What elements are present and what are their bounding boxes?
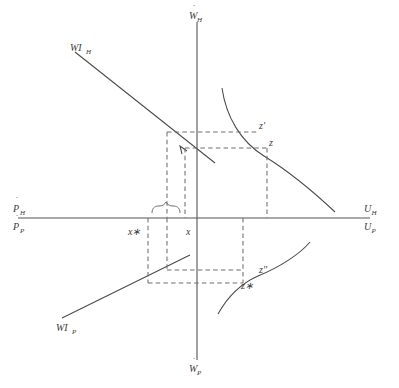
label-wi-upper-base: WI bbox=[70, 42, 82, 53]
label-right-lower: U P bbox=[364, 221, 377, 235]
label-u-lower-sub: P bbox=[371, 227, 377, 235]
label-wi-lower-sub: P bbox=[71, 328, 77, 336]
label-p-lower: P bbox=[12, 221, 19, 232]
label-p-lower-sub: P bbox=[19, 227, 25, 235]
label-wi-lower: WI P bbox=[56, 322, 77, 336]
label-left-upper: ˙ P H bbox=[12, 195, 26, 217]
diagram-canvas: ˙ W H ˙ W P ˙ P H ˙ P P U H U bbox=[0, 0, 399, 388]
label-vertical-top: ˙ W H bbox=[189, 3, 203, 24]
point-label-z-prime: z′ bbox=[258, 120, 266, 131]
axis-group bbox=[18, 22, 370, 360]
wi-arrow-marker bbox=[180, 146, 187, 154]
wi-lines-group bbox=[62, 52, 215, 318]
wi-upper-line bbox=[75, 52, 215, 163]
tick-label-x: x bbox=[185, 226, 191, 237]
label-wi-upper: WI H bbox=[70, 42, 92, 56]
dashed-projections-lower bbox=[148, 218, 243, 283]
label-wi-upper-sub: H bbox=[85, 48, 92, 56]
gap-brace bbox=[152, 202, 180, 213]
label-p-upper-sub: H bbox=[19, 209, 26, 217]
label-u-upper-sub: H bbox=[371, 209, 378, 217]
phillips-curve-lower bbox=[218, 242, 310, 314]
point-label-z: z bbox=[268, 137, 273, 148]
point-label-z-double-prime: z′′ bbox=[258, 264, 268, 275]
label-vertical-bottom: ˙ W P bbox=[189, 356, 202, 377]
phillips-curve-upper bbox=[222, 88, 335, 212]
label-w-lower-sub: P bbox=[196, 369, 202, 377]
wi-lower-line bbox=[62, 255, 190, 318]
label-right-upper: U H bbox=[364, 203, 378, 217]
point-label-z-star: z∗ bbox=[240, 280, 254, 291]
dashed-projections-upper bbox=[167, 132, 267, 218]
four-quadrant-diagram: ˙ W H ˙ W P ˙ P H ˙ P P U H U bbox=[0, 0, 399, 388]
label-w-upper-sub: H bbox=[196, 16, 203, 24]
phillips-curves-group bbox=[218, 88, 335, 314]
label-wi-lower-base: WI bbox=[56, 322, 68, 333]
tick-label-x-star: x∗ bbox=[127, 226, 141, 237]
